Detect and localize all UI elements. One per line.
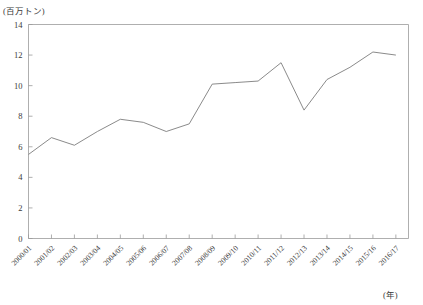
x-tick-label: 2016/17 (377, 243, 401, 267)
x-tick-label: 2002/03 (55, 243, 79, 267)
chart-container: (百万トン) (年) 02468101214 2000/012001/02200… (0, 0, 423, 305)
x-tick-label: 2008/09 (193, 243, 217, 267)
line-chart-plot: 02468101214 2000/012001/022002/032003/04… (0, 0, 423, 305)
y-tick-label: 0 (18, 234, 22, 244)
x-tick-label: 2013/14 (308, 243, 332, 267)
x-tick-label: 2000/01 (9, 243, 33, 267)
y-tick-label: 4 (18, 172, 23, 182)
x-tick-label: 2003/04 (78, 243, 102, 267)
x-tick-label: 2012/13 (285, 243, 309, 267)
x-axis-unit-label: (年) (383, 288, 398, 300)
x-tick-label: 2005/06 (124, 243, 148, 267)
y-axis-ticks: 02468101214 (14, 20, 33, 244)
x-tick-label: 2007/08 (170, 243, 194, 267)
x-tick-label: 2006/07 (147, 243, 171, 267)
x-tick-label: 2001/02 (32, 243, 56, 267)
x-tick-label: 2004/05 (101, 243, 125, 267)
y-tick-label: 6 (18, 142, 22, 152)
y-tick-label: 12 (14, 50, 23, 60)
x-tick-label: 2014/15 (331, 243, 355, 267)
plot-border (29, 25, 409, 239)
y-tick-label: 2 (18, 203, 22, 213)
x-tick-label: 2010/11 (239, 243, 263, 267)
y-tick-label: 8 (18, 111, 22, 121)
y-tick-label: 10 (14, 81, 23, 91)
y-axis-unit-label: (百万トン) (3, 4, 45, 16)
x-axis-ticks: 2000/012001/022002/032003/042004/052005/… (9, 235, 400, 268)
data-line (29, 52, 396, 154)
plot-frame (29, 25, 409, 239)
x-tick-label: 2009/10 (216, 243, 240, 267)
y-tick-label: 14 (14, 20, 23, 30)
x-tick-label: 2011/12 (262, 243, 286, 267)
x-tick-label: 2015/16 (354, 243, 378, 267)
data-series-group (29, 52, 396, 154)
